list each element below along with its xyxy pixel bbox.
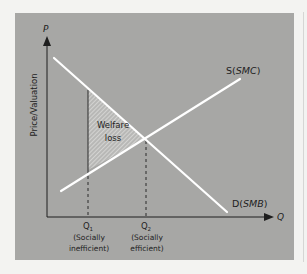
q1-desc-line1: (Socially	[73, 233, 105, 242]
q1-desc-line2: inefficient)	[69, 244, 109, 253]
demand-curve	[54, 58, 227, 212]
y-axis-label: Price/Valuation	[29, 73, 39, 136]
externality-diagram: P Q Price/Valuation S(SMC) D(SMB) Welfar…	[0, 0, 307, 274]
q2-label: Q2	[141, 221, 151, 232]
welfare-loss-label-line1: Welfare	[97, 120, 129, 130]
y-axis-symbol: P	[43, 24, 49, 34]
welfare-loss-label-line2: loss	[105, 133, 122, 143]
welfare-loss-region	[88, 90, 146, 170]
q1-label: Q1	[83, 221, 93, 232]
supply-label: S(SMC)	[226, 65, 260, 76]
y-axis-arrow-icon	[43, 36, 51, 46]
x-axis-arrow-icon	[264, 213, 274, 221]
q2-desc-line2: efficient)	[130, 244, 163, 253]
demand-label: D(SMB)	[232, 198, 268, 209]
x-axis-symbol: Q	[277, 212, 284, 222]
q2-desc-line1: (Socially	[131, 233, 163, 242]
